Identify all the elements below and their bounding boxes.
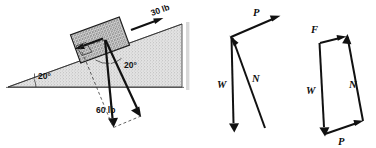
resultant-angle-label: 20° [124,60,137,70]
scan-edge-artifact [186,22,189,90]
figure-canvas: 20° 20° 30 lb 60 lb [0,0,376,148]
applied-force-30lb-vector [131,18,163,30]
vector-label-N-right: N [348,79,357,90]
vector-P-middle [231,16,281,37]
vector-label-W-right: W [306,85,316,96]
vector-N-middle [233,38,266,128]
incline-angle-label: 20° [38,71,51,81]
vector-P-right [325,120,364,134]
physics-figure: 20° 20° 30 lb 60 lb [0,0,376,148]
vector-label-P-right: P [338,136,345,147]
vector-label-P-middle: P [253,7,260,18]
force-polygon-right-group: F N P W [306,24,364,147]
force-diagram-middle-group: P W N [217,7,281,133]
vector-label-W-middle: W [217,79,227,90]
weight-label: 60 lb [96,105,115,115]
vector-N-head-right [342,34,351,44]
vector-W-right [319,43,329,137]
inclined-plane-group: 20° 20° 30 lb 60 lb [6,2,184,128]
vector-label-N-middle: N [251,73,260,84]
vector-F-right [320,35,347,43]
applied-force-label: 30 lb [149,2,171,18]
vector-label-F-right: F [310,24,318,35]
